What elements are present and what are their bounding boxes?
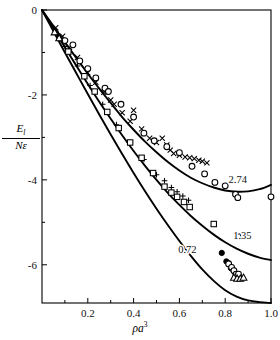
y-tick-label: -2 — [28, 89, 37, 101]
marker-plus — [162, 178, 168, 184]
curve-label: 1.35 — [233, 230, 251, 241]
y-axis-label-numerator: El — [2, 123, 40, 139]
marker-circle-open — [189, 163, 195, 169]
x-tick-label: 0.2 — [81, 307, 95, 319]
marker-circle-open — [212, 180, 218, 186]
marker-x — [171, 151, 176, 156]
marker-x — [204, 160, 209, 165]
figure-root: 0.20.40.60.81.00-2-4-62.742.741.351.350.… — [0, 0, 280, 340]
marker-square-open — [66, 49, 71, 54]
data-curve — [42, 10, 271, 260]
marker-circle-open — [118, 101, 124, 107]
y-tick-label: -4 — [28, 174, 38, 186]
marker-x — [120, 110, 125, 115]
marker-circle-open — [141, 130, 147, 136]
marker-circle-open — [93, 75, 99, 81]
marker-square-open — [174, 194, 179, 199]
x-tick-label: 0.8 — [218, 307, 232, 319]
y-axis-label: El Nε — [2, 123, 40, 152]
marker-square-open — [127, 140, 132, 145]
data-curve — [42, 10, 271, 303]
marker-circle-open — [131, 114, 137, 120]
marker-circle-open — [70, 42, 76, 48]
marker-circle-open — [164, 144, 170, 150]
y-tick-label: 0 — [32, 4, 38, 16]
marker-square-open — [150, 170, 155, 175]
marker-circle-open — [222, 183, 228, 189]
marker-x — [183, 154, 188, 159]
marker-square-open — [187, 204, 192, 209]
marker-square-open — [211, 221, 216, 226]
marker-square-open — [169, 190, 174, 195]
marker-circle-open — [177, 150, 183, 156]
x-axis-label: ρa3 — [0, 320, 280, 334]
x-tick-label: 0.6 — [173, 307, 187, 319]
plot-content: 0.20.40.60.81.00-2-4-62.742.741.351.350.… — [28, 4, 279, 319]
marker-circle-open — [106, 89, 112, 95]
y-axis-label-denominator: Nε — [2, 139, 40, 152]
marker-circle-open — [85, 66, 91, 72]
x-tick-label: 1.0 — [264, 307, 278, 319]
marker-square-open — [92, 89, 97, 94]
data-curve — [42, 10, 271, 192]
marker-plus — [180, 193, 186, 199]
marker-x — [131, 108, 136, 113]
marker-x — [200, 159, 205, 164]
marker-square-open — [162, 184, 167, 189]
marker-circle-open — [268, 194, 274, 200]
marker-square-open — [181, 199, 186, 204]
marker-square-open — [82, 74, 87, 79]
marker-circle-open — [77, 58, 83, 64]
marker-x — [160, 136, 165, 141]
plot-frame — [42, 10, 271, 303]
marker-circle-open — [151, 138, 157, 144]
marker-square-open — [139, 155, 144, 160]
marker-x — [192, 156, 197, 161]
marker-square-open — [105, 109, 110, 114]
marker-circle-open — [235, 195, 241, 201]
marker-circle-open — [202, 171, 208, 177]
y-tick-label: -6 — [28, 259, 38, 271]
marker-x — [187, 155, 192, 160]
curve-label: 0.72 — [178, 244, 196, 255]
curve-label: 2.74 — [229, 174, 248, 185]
x-tick-label: 0.4 — [127, 307, 141, 319]
marker-circle-filled — [219, 250, 224, 255]
marker-square-open — [116, 125, 121, 130]
chart-canvas: 0.20.40.60.81.00-2-4-62.742.741.351.350.… — [0, 0, 280, 340]
